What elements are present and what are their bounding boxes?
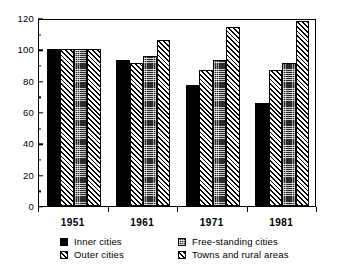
y-axis: 020406080100120 [0, 19, 34, 207]
plot-area [38, 19, 316, 207]
y-tick-major [38, 18, 43, 19]
y-tick-label: 20 [23, 171, 34, 181]
x-tick-label-1951: 1951 [61, 218, 85, 228]
x-tick [38, 207, 39, 212]
legend-item: Towns and rural areas [178, 250, 289, 260]
bar [186, 85, 200, 206]
y-tick-minor [38, 128, 41, 129]
x-tick-label-1971: 1971 [200, 218, 224, 228]
bar [60, 49, 74, 206]
bar [74, 49, 88, 206]
x-tick [108, 207, 109, 212]
y-tick-major [38, 81, 43, 82]
bar [157, 40, 171, 206]
bar [226, 27, 240, 206]
y-tick-label: 0 [29, 202, 34, 212]
bar [87, 49, 101, 206]
legend-item: Free-standing cities [178, 237, 278, 247]
legend-swatch-icon [60, 238, 68, 246]
y-tick-label: 80 [23, 77, 34, 87]
chart-legend: Inner citiesFree-standing citiesOuter ci… [60, 237, 290, 267]
legend-item-label: Inner cities [74, 237, 122, 247]
bar [130, 63, 144, 206]
bar [269, 70, 283, 206]
y-tick-major [38, 144, 43, 145]
legend-item: Inner cities [60, 237, 122, 247]
bar [255, 103, 269, 206]
legend-item-label: Free-standing cities [192, 237, 278, 247]
y-tick-major [38, 50, 43, 51]
y-tick-label: 60 [23, 108, 34, 118]
y-tick-minor [38, 34, 41, 35]
y-tick-label: 100 [18, 46, 34, 56]
legend-item: Outer cities [60, 250, 124, 260]
x-tick [316, 207, 317, 212]
legend-item-label: Towns and rural areas [192, 250, 289, 260]
y-tick-label: 120 [18, 14, 34, 24]
legend-swatch-icon [60, 251, 68, 259]
bar [213, 60, 227, 206]
y-tick-major [38, 206, 43, 207]
bar [47, 49, 61, 206]
y-tick-minor [38, 191, 41, 192]
y-tick-minor [38, 97, 41, 98]
y-tick-major [38, 112, 43, 113]
legend-swatch-icon [178, 251, 186, 259]
legend-item-label: Outer cities [74, 250, 124, 260]
y-tick-minor [38, 65, 41, 66]
bar [296, 21, 310, 206]
y-tick-label: 40 [23, 140, 34, 150]
x-tick-label-1981: 1981 [269, 218, 293, 228]
x-tick [177, 207, 178, 212]
x-tick-label-1961: 1961 [130, 218, 154, 228]
bar [282, 63, 296, 206]
bar-chart-figure: 020406080100120 1951196119711981 Inner c… [0, 0, 340, 279]
x-tick [247, 207, 248, 212]
y-tick-major [38, 175, 43, 176]
y-tick-minor [38, 159, 41, 160]
bar [143, 56, 157, 206]
legend-swatch-icon [178, 238, 186, 246]
bar [116, 60, 130, 206]
bar [199, 70, 213, 206]
